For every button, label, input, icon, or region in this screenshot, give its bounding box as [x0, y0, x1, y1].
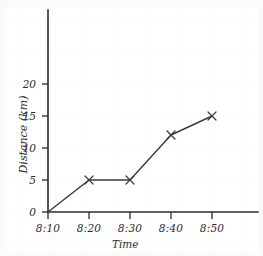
data-point-marker-840 — [167, 131, 175, 139]
distance-time-chart — [0, 0, 263, 256]
x-tick-label-820: 8:20 — [77, 222, 101, 234]
x-tick-label-810: 8:10 — [36, 222, 60, 234]
x-axis-ticks — [48, 212, 212, 219]
data-point-marker-850 — [208, 112, 216, 120]
x-tick-label-840: 8:40 — [159, 222, 183, 234]
y-axis-title: Distance (km) — [17, 80, 30, 190]
x-tick-label-850: 8:50 — [200, 222, 224, 234]
y-axis-ticks — [42, 84, 48, 212]
y-tick-label-0: 0 — [16, 206, 36, 218]
x-tick-label-830: 8:30 — [118, 222, 142, 234]
chart-page: 0 5 10 15 20 8:10 8:20 8:30 8:40 8:50 Ti… — [0, 0, 263, 256]
data-line-series-1 — [48, 116, 212, 212]
x-axis-title: Time — [112, 238, 139, 250]
